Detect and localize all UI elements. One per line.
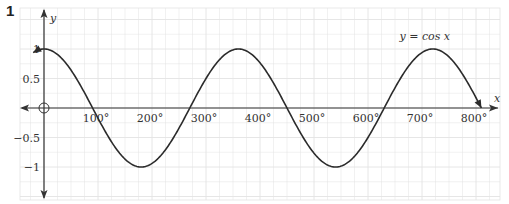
- x-tick-label: 500°: [299, 112, 326, 125]
- x-tick-label: 400°: [245, 112, 272, 125]
- curve-arrows: [33, 45, 481, 108]
- x-axis-label: x: [494, 92, 501, 105]
- cosine-chart: 100°200°300°400°500°600°700°800°10.5−0.5…: [0, 0, 509, 204]
- y-tick-label: −1: [24, 161, 40, 174]
- curve-label: y = cos x: [399, 30, 451, 43]
- x-tick-label: 600°: [353, 112, 380, 125]
- x-tick-label: 700°: [407, 112, 434, 125]
- y-tick-label: −0.5: [13, 132, 40, 145]
- x-tick-label: 200°: [137, 112, 164, 125]
- x-tick-label: 800°: [461, 112, 488, 125]
- y-tick-label: 0.5: [23, 73, 41, 86]
- x-tick-label: 300°: [191, 112, 218, 125]
- y-axis-label: y: [49, 12, 57, 25]
